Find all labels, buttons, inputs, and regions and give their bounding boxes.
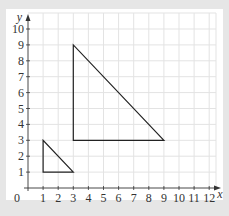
x-tick-label: 11: [188, 191, 200, 205]
y-tick-label: 8: [18, 54, 24, 68]
x-tick-label: 3: [70, 191, 76, 205]
y-tick-label: 3: [18, 133, 24, 147]
y-axis-label: y: [16, 10, 23, 24]
x-tick-label: 6: [116, 191, 122, 205]
coordinate-plot: 123456789101112123456789100xy: [0, 0, 229, 216]
y-axis-arrow-icon: [26, 14, 31, 21]
x-tick-label: 1: [40, 191, 46, 205]
x-tick-label: 4: [85, 191, 91, 205]
x-axis-label: x: [216, 187, 223, 201]
y-tick-label: 4: [18, 117, 24, 131]
axes: [24, 14, 221, 191]
tick-labels: 123456789101112123456789100xy: [12, 10, 223, 205]
y-tick-label: 10: [12, 22, 24, 36]
x-tick-label: 12: [203, 191, 215, 205]
x-tick-label: 10: [173, 191, 185, 205]
grid-lines: [28, 13, 216, 188]
origin-label: 0: [14, 191, 20, 205]
y-tick-label: 2: [18, 149, 24, 163]
y-tick-label: 9: [18, 38, 24, 52]
y-tick-label: 6: [18, 86, 24, 100]
y-tick-label: 5: [18, 102, 24, 116]
x-tick-label: 9: [161, 191, 167, 205]
x-tick-label: 5: [101, 191, 107, 205]
y-tick-label: 7: [18, 70, 24, 84]
x-tick-label: 2: [55, 191, 61, 205]
y-tick-label: 1: [18, 165, 24, 179]
x-tick-label: 7: [131, 191, 137, 205]
x-tick-label: 8: [146, 191, 152, 205]
